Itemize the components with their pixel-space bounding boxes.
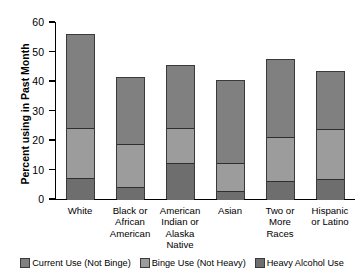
y-axis-tick-label: 10 [0,165,44,176]
bar-segment [317,72,344,130]
x-axis-label-line: Native [151,239,209,250]
bar-segment [167,66,194,128]
bar-segment [117,144,144,187]
bar-segment [217,191,244,200]
legend-item[interactable]: Binge Use (Not Heavy) [140,258,246,268]
bar[interactable] [166,65,195,199]
x-axis-label-line: Hispanic [301,205,359,216]
bar-segment [67,35,94,128]
x-axis-label-line: Races [251,228,309,239]
bar-segment [67,128,94,178]
bar[interactable] [116,77,145,199]
x-axis-line [55,199,355,200]
legend-item[interactable]: Heavy Alcohol Use [255,258,344,268]
bar[interactable] [316,71,345,199]
legend-label: Heavy Alcohol Use [267,258,344,268]
bar-segment [317,129,344,179]
bar-segment [167,128,194,163]
bar-segment [267,60,294,137]
y-axis-tick-label: 30 [0,106,44,117]
bar-segment [217,163,244,191]
bar[interactable] [266,59,295,199]
bar-segment [117,78,144,144]
legend-label: Current Use (Not Binge) [32,258,131,268]
bar[interactable] [66,34,95,199]
bar-segment [267,137,294,181]
y-axis-tick-label: 40 [0,76,44,87]
bar-segment [317,179,344,200]
stacked-bar-chart: Percent using in Past Month 010203040506… [0,0,364,278]
bar-segment [267,181,294,200]
bar[interactable] [216,80,245,199]
y-axis-tick-label: 0 [0,194,44,205]
bar-segment [67,178,94,200]
legend-swatch-icon [140,258,150,268]
x-axis-label-line: or Latino [301,216,359,227]
y-axis-tick-label: 60 [0,17,44,28]
y-axis-tick-label: 20 [0,135,44,146]
x-axis-label-line: Alaska [151,228,209,239]
x-axis-label: Hispanicor Latino [301,205,359,228]
legend-swatch-icon [255,258,265,268]
legend-item[interactable]: Current Use (Not Binge) [20,258,131,268]
plot-area [55,22,355,199]
chart-legend: Current Use (Not Binge)Binge Use (Not He… [0,258,364,268]
y-axis-tick-label: 50 [0,47,44,58]
legend-swatch-icon [20,258,30,268]
bar-segment [117,187,144,200]
legend-label: Binge Use (Not Heavy) [152,258,246,268]
bar-segment [217,81,244,164]
x-axis-label-line: Indian or [151,216,209,227]
bar-segment [167,163,194,200]
